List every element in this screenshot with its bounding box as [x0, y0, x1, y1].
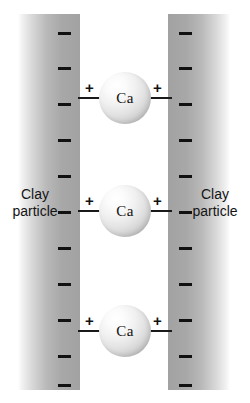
clay-calcium-diagram: + + Ca + + Ca + + Ca Clay particle Clay …	[0, 0, 250, 403]
negative-charge-left-7	[58, 247, 71, 250]
calcium-ion-sphere-1: Ca	[99, 72, 151, 124]
calcium-ion-sphere-2: Ca	[99, 185, 151, 237]
negative-charge-left-10	[58, 355, 71, 358]
negative-charge-right-5	[179, 175, 192, 178]
negative-charge-left-1	[58, 32, 71, 35]
negative-charge-left-2	[58, 67, 71, 70]
negative-charge-right-1	[179, 32, 192, 35]
negative-charge-right-11	[179, 384, 192, 387]
clay-particle-left-label-line1: Clay	[2, 186, 68, 203]
clay-particle-right-label-line1: Clay	[182, 186, 248, 203]
positive-charge-right-2: +	[153, 193, 162, 208]
negative-charge-right-8	[179, 283, 192, 286]
positive-charge-left-1: +	[85, 80, 94, 95]
positive-charge-right-3: +	[153, 313, 162, 328]
negative-charge-left-3	[58, 103, 71, 106]
negative-charge-left-4	[58, 139, 71, 142]
clay-particle-right-label: Clay particle	[182, 186, 248, 220]
clay-particle-right-label-line2: particle	[182, 203, 248, 220]
negative-charge-right-9	[179, 319, 192, 322]
calcium-ion-label-3: Ca	[116, 323, 133, 340]
negative-charge-right-3	[179, 103, 192, 106]
calcium-ion-label-2: Ca	[116, 203, 133, 220]
clay-particle-left-label-line2: particle	[2, 203, 68, 220]
negative-charge-left-8	[58, 283, 71, 286]
negative-charge-right-2	[179, 67, 192, 70]
negative-charge-left-9	[58, 319, 71, 322]
positive-charge-left-3: +	[85, 313, 94, 328]
negative-charge-right-10	[179, 355, 192, 358]
positive-charge-left-2: +	[85, 193, 94, 208]
positive-charge-right-1: +	[153, 80, 162, 95]
negative-charge-right-4	[179, 139, 192, 142]
negative-charge-left-11	[58, 384, 71, 387]
negative-charge-left-5	[58, 175, 71, 178]
calcium-ion-label-1: Ca	[116, 90, 133, 107]
calcium-ion-sphere-3: Ca	[99, 305, 151, 357]
negative-charge-right-7	[179, 247, 192, 250]
clay-particle-left-label: Clay particle	[2, 186, 68, 220]
